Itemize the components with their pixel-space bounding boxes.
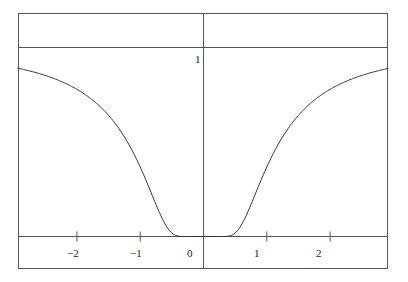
y-tick-label-1: 1: [195, 53, 201, 65]
function-curve: [17, 68, 388, 236]
x-tick-label-1: 1: [254, 247, 260, 259]
plot-svg: 1 −2 −1 0 1 2: [0, 0, 408, 282]
x-tick-label-0: 0: [187, 247, 193, 259]
x-tick-label-2: 2: [316, 247, 322, 259]
chart-container: 1 −2 −1 0 1 2: [0, 0, 408, 282]
x-tick-label-minus-1: −1: [130, 247, 142, 259]
x-tick-label-minus-2: −2: [67, 247, 79, 259]
